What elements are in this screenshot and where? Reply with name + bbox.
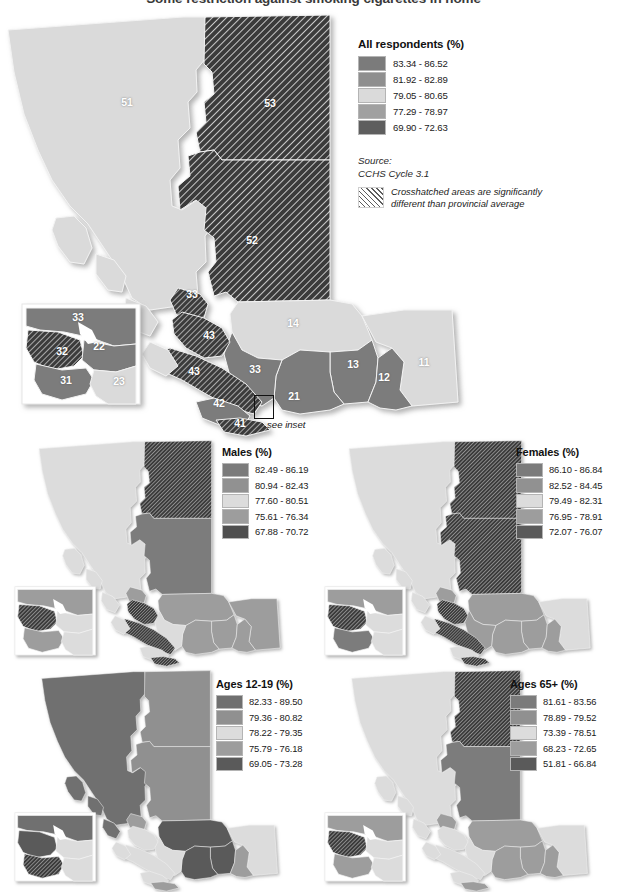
source-block: Source: CCHS Cycle 3.1 xyxy=(358,155,429,180)
legend-swatch xyxy=(358,88,386,103)
legend-row[interactable]: 81.61 - 83.56 xyxy=(510,695,596,709)
legend-row[interactable]: 78.89 - 79.52 xyxy=(510,711,596,725)
legend-range-label: 69.05 - 73.28 xyxy=(249,758,302,769)
haida-gwaii[interactable] xyxy=(52,216,92,264)
legend-swatch xyxy=(510,726,537,741)
f-region-53[interactable] xyxy=(450,441,522,519)
a1-region-53[interactable] xyxy=(140,671,210,747)
legend-range-label: 75.61 - 76.34 xyxy=(255,511,308,522)
legend-range-label: 73.39 - 78.51 xyxy=(543,727,596,738)
legend-swatch xyxy=(222,494,249,509)
legend-all-respondents: All respondents (%) 83.34 - 86.52 81.92 … xyxy=(358,38,464,136)
legend-row[interactable]: 81.92 - 82.89 xyxy=(358,72,464,86)
ages-65-plus-inset-svg[interactable] xyxy=(322,810,418,892)
legend-row[interactable]: 80.94 - 82.43 xyxy=(222,479,308,493)
legend-range-label: 82.33 - 89.50 xyxy=(249,696,302,707)
f-inset-region-31[interactable] xyxy=(333,628,374,653)
legend-swatch xyxy=(516,463,543,478)
f-region-41[interactable] xyxy=(461,657,490,667)
legend-row[interactable]: 83.34 - 86.52 xyxy=(358,56,464,70)
lower-mainland-inset-svg[interactable] xyxy=(18,300,158,420)
legend-row[interactable]: 69.90 - 72.63 xyxy=(358,120,464,134)
legend-row[interactable]: 72.07 - 76.07 xyxy=(516,525,602,539)
legend-row[interactable]: 76.95 - 78.91 xyxy=(516,510,602,524)
legend-row[interactable]: 67.88 - 70.72 xyxy=(222,525,308,539)
m-coast-fringe-3[interactable] xyxy=(111,616,130,634)
a2-haida-gwaii[interactable] xyxy=(375,776,396,801)
legend-swatch xyxy=(358,120,386,135)
legend-row[interactable]: 86.10 - 86.84 xyxy=(516,463,602,477)
ages-12-19-inset-svg[interactable] xyxy=(12,810,108,892)
f-coast-fringe-3[interactable] xyxy=(421,616,440,634)
legend-range-label: 68.23 - 72.65 xyxy=(543,743,596,754)
a2-region-41[interactable] xyxy=(461,882,489,891)
f-haida-gwaii[interactable] xyxy=(373,548,394,574)
a2-inset-region-31[interactable] xyxy=(333,854,374,879)
legend-range-label: 77.29 - 78.97 xyxy=(393,106,448,117)
crosshatch-note-line-1: Crosshatched areas are significantly xyxy=(391,186,542,197)
legend-row[interactable]: 82.49 - 86.19 xyxy=(222,463,308,477)
legend-females: Females (%) 86.10 - 86.84 82.52 - 84.45 … xyxy=(516,446,602,541)
m-inset-region-22[interactable] xyxy=(56,611,93,633)
legend-row[interactable]: 75.79 - 76.18 xyxy=(216,742,302,756)
legend-ages-65-plus: Ages 65+ (%) 81.61 - 83.56 78.89 - 79.52… xyxy=(510,678,596,773)
legend-row[interactable]: 78.22 - 79.35 xyxy=(216,726,302,740)
legend-swatch xyxy=(516,509,543,524)
inset-region-22[interactable] xyxy=(82,340,136,372)
legend-range-label: 75.79 - 76.18 xyxy=(249,743,302,754)
page-title: Some restriction against smoking cigaret… xyxy=(0,0,627,6)
a2-coast-fringe-3[interactable] xyxy=(422,842,441,860)
legend-row[interactable]: 69.05 - 73.28 xyxy=(216,757,302,771)
legend-swatch xyxy=(510,741,537,756)
region-53[interactable] xyxy=(196,15,330,160)
m-region-41[interactable] xyxy=(151,657,180,667)
females-inset-svg[interactable] xyxy=(322,584,418,666)
legend-swatch xyxy=(358,72,386,87)
legend-row[interactable]: 68.23 - 72.65 xyxy=(510,742,596,756)
legend-row[interactable]: 77.29 - 78.97 xyxy=(358,104,464,118)
legend-range-label: 76.95 - 78.91 xyxy=(549,511,602,522)
a1-inset-region-22[interactable] xyxy=(56,837,93,859)
legend-range-label: 86.10 - 86.84 xyxy=(549,464,602,475)
legend-range-label: 69.90 - 72.63 xyxy=(393,122,448,133)
legend-row[interactable]: 79.36 - 80.82 xyxy=(216,711,302,725)
source-line-1: Source: xyxy=(358,155,429,168)
a1-coast-fringe-3[interactable] xyxy=(112,842,131,860)
m-region-53[interactable] xyxy=(140,441,212,519)
legend-range-label: 67.88 - 70.72 xyxy=(255,526,308,537)
region-41[interactable] xyxy=(216,418,270,436)
f-inset-region-22[interactable] xyxy=(366,611,403,633)
m-inset-region-31[interactable] xyxy=(23,628,64,653)
legend-row[interactable]: 75.61 - 76.34 xyxy=(222,510,308,524)
legend-swatch xyxy=(358,104,386,119)
legend-row[interactable]: 51.81 - 66.84 xyxy=(510,757,596,771)
inset-locator-box xyxy=(254,395,274,419)
legend-row[interactable]: 73.39 - 78.51 xyxy=(510,726,596,740)
males-inset-svg[interactable] xyxy=(12,584,108,666)
legend-range-label: 51.81 - 66.84 xyxy=(543,758,596,769)
crosshatch-icon xyxy=(358,187,384,208)
legend-row[interactable]: 79.49 - 82.31 xyxy=(516,494,602,508)
legend-row[interactable]: 79.05 - 80.65 xyxy=(358,88,464,102)
a1-haida-gwaii[interactable] xyxy=(65,776,86,801)
legend-range-label: 80.94 - 82.43 xyxy=(255,480,308,491)
legend-row[interactable]: 77.60 - 80.51 xyxy=(222,494,308,508)
legend-swatch xyxy=(216,695,243,710)
crosshatch-note: Crosshatched areas are significantly dif… xyxy=(358,186,623,209)
m-haida-gwaii[interactable] xyxy=(63,548,84,574)
legend-range-label: 72.07 - 76.07 xyxy=(549,526,602,537)
a1-inset-region-31[interactable] xyxy=(23,854,64,879)
a2-inset-region-22[interactable] xyxy=(366,837,403,859)
crosshatch-note-line-2: different than provincial average xyxy=(391,198,524,209)
legend-swatch xyxy=(222,463,249,478)
legend-swatch xyxy=(216,741,243,756)
legend-range-label: 78.22 - 79.35 xyxy=(249,727,302,738)
legend-all-title: All respondents (%) xyxy=(358,38,464,50)
legend-row[interactable]: 82.33 - 89.50 xyxy=(216,695,302,709)
legend-row[interactable]: 82.52 - 84.45 xyxy=(516,479,602,493)
inset-region-31[interactable] xyxy=(34,364,94,400)
legend-swatch xyxy=(216,726,243,741)
crosshatch-note-text: Crosshatched areas are significantly dif… xyxy=(391,186,542,209)
a1-region-41[interactable] xyxy=(151,882,179,891)
legend-swatch xyxy=(222,478,249,493)
